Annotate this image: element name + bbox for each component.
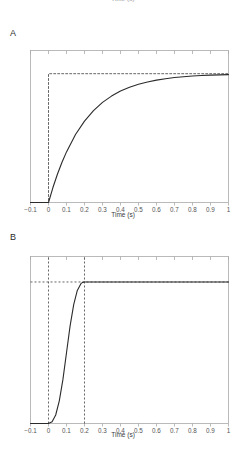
figure-root: Time (s) A −0.100.10.20.30.40.50.60.70.8… [0, 0, 246, 450]
panel-a: A −0.100.10.20.30.40.50.60.70.80.91 Time… [0, 0, 246, 225]
panel-b-svg: −0.100.10.20.30.40.50.60.70.80.91 [0, 225, 246, 450]
series-step-input [31, 74, 229, 203]
panel-b-xlabel: Time (s) [0, 431, 246, 438]
panel-b: B −0.100.10.20.30.40.50.60.70.80.91 Time… [0, 225, 246, 450]
panel-a-svg: −0.100.10.20.30.40.50.60.70.80.91 [0, 0, 246, 225]
series-sigmoid-response [31, 282, 229, 424]
series-first-order-response [31, 75, 229, 203]
panel-a-plot: −0.100.10.20.30.40.50.60.70.80.91 [0, 0, 246, 225]
panel-a-xlabel: Time (s) [0, 211, 246, 218]
panel-b-plot: −0.100.10.20.30.40.50.60.70.80.91 [0, 225, 246, 450]
